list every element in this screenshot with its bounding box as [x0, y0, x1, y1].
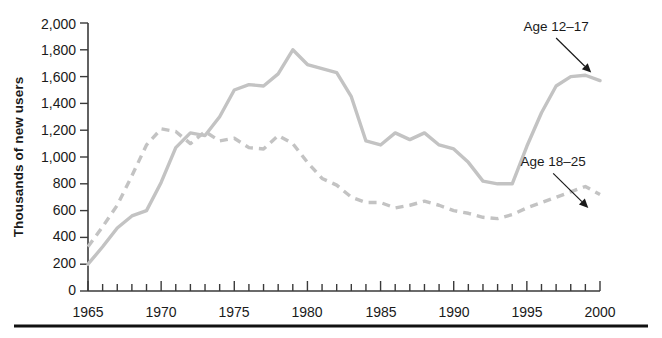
y-tick-label: 1,800 [41, 42, 76, 58]
x-tick-label: 1965 [72, 304, 103, 320]
y-tick-label: 1,000 [41, 149, 76, 165]
y-tick-label: 2,000 [41, 16, 76, 32]
y-tick-label: 1,200 [41, 122, 76, 138]
x-tick-label: 1975 [218, 304, 249, 320]
y-tick-label: 200 [53, 255, 77, 271]
x-tick-label: 1995 [511, 304, 542, 320]
x-tick-label: 1970 [145, 304, 176, 320]
y-tick-label: 1,400 [41, 95, 76, 111]
y-axis-title: Thousands of new users [11, 77, 26, 237]
series-label-age-12-17: Age 12–17 [523, 19, 588, 34]
x-tick-label: 1990 [438, 304, 469, 320]
y-tick-label: 400 [53, 228, 77, 244]
y-tick-label: 1,600 [41, 69, 76, 85]
x-tick-label: 1980 [291, 304, 322, 320]
y-tick-label: 600 [53, 202, 77, 218]
x-tick-label: 1985 [365, 304, 396, 320]
x-tick-label: 2000 [584, 304, 615, 320]
series-label-age-18-25: Age 18–25 [521, 154, 586, 169]
y-tick-label: 0 [68, 282, 76, 298]
line-chart-figure: Thousands of new users 0 200 400 600 800… [0, 0, 662, 338]
y-tick-label: 800 [53, 175, 77, 191]
